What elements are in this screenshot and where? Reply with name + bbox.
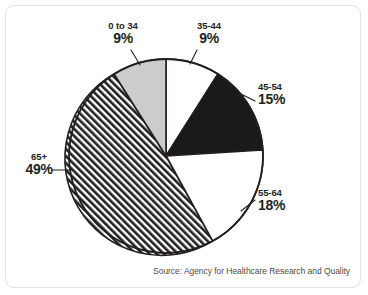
pie-label-0-to-34-value: 9% xyxy=(92,31,154,46)
pie-label-45-54-value: 15% xyxy=(258,92,320,107)
pie-label-65-plus-value: 49% xyxy=(10,162,68,177)
pie-label-45-54: 45-54 15% xyxy=(258,82,320,107)
pie-label-55-64-value: 18% xyxy=(258,198,320,213)
leader-line-35-44 xyxy=(190,50,197,64)
pie-label-35-44-value: 9% xyxy=(178,31,240,46)
source-note: Source: Agency for Healthcare Research a… xyxy=(153,266,350,276)
pie-label-35-44: 35-44 9% xyxy=(178,21,240,46)
pie-label-0-to-34: 0 to 34 9% xyxy=(92,21,154,46)
pie-chart: 0 to 34 9% 35-44 9% 45-54 15% 55-64 18% … xyxy=(0,0,368,295)
leader-line-0-to-34 xyxy=(131,50,140,65)
pie-label-65-plus: 65+ 49% xyxy=(10,152,68,177)
pie-label-55-64: 55-64 18% xyxy=(258,188,320,213)
